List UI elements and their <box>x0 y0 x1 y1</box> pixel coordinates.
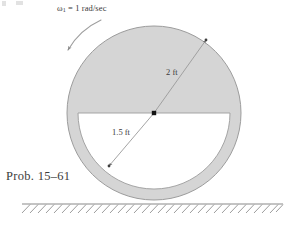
ground-hatching <box>22 205 283 213</box>
outer-radius-endpoint <box>205 39 208 42</box>
omega-value: = 1 rad/sec <box>66 3 107 13</box>
rolling-body-diagram <box>0 0 288 225</box>
inner-radius-endpoint <box>108 165 111 168</box>
figure-canvas: ω1 = 1 rad/sec 2 ft 1.5 ft Prob. 15–61 <box>0 0 288 225</box>
outer-radius-label: 2 ft <box>166 68 178 77</box>
center-point-marker <box>152 111 156 115</box>
problem-caption: Prob. 15–61 <box>6 170 70 183</box>
inner-radius-label: 1.5 ft <box>112 128 130 137</box>
omega-arc-icon <box>68 20 101 50</box>
angular-velocity-arrow <box>68 20 101 50</box>
ground-surface <box>22 204 283 213</box>
angular-velocity-label: ω1 = 1 rad/sec <box>57 4 107 13</box>
